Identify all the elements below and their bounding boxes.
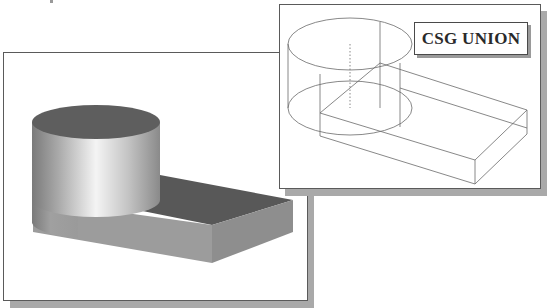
csg-union-label: CSG UNION bbox=[414, 22, 528, 55]
csg-union-text: CSG UNION bbox=[422, 29, 521, 49]
